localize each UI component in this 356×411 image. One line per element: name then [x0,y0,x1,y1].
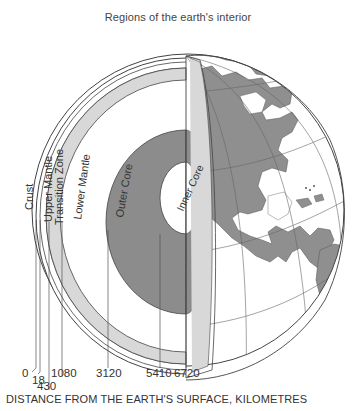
label-crust: Crust [23,184,35,210]
axis-label: DISTANCE FROM THE EARTH'S SURFACE, KILOM… [6,393,307,405]
tick-430: 430 [37,380,56,392]
tick-6720: 6720 [174,367,200,379]
tick-1080: 1080 [51,367,77,379]
earth-cutaway-diagram: Crust Upper Mantle Transition Zone Lower… [0,0,356,411]
tick-3120: 3120 [96,367,122,379]
tick-5410: 5410 [146,367,172,379]
tick-0: 0 [22,367,28,379]
label-transition-zone: Transition Zone [53,149,65,225]
